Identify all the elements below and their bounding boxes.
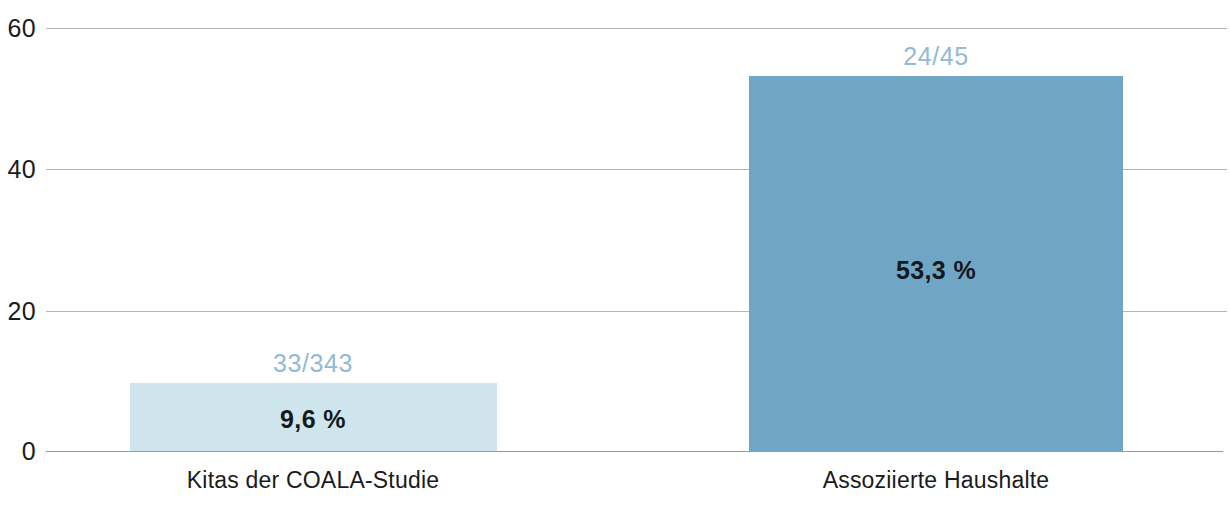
y-tick-label-60: 60	[0, 16, 36, 41]
bar-value-label-haushalte: 53,3 %	[816, 256, 1056, 285]
y-tick-label-40: 40	[0, 157, 36, 182]
y-tick-label-20: 20	[0, 299, 36, 324]
axis-baseline-0	[46, 451, 1223, 452]
gridline-60	[46, 28, 1227, 29]
x-category-label-kitas: Kitas der COALA-Studie	[133, 467, 493, 494]
bar-fraction-label-haushalte: 24/45	[816, 42, 1056, 71]
bar-fraction-label-kitas: 33/343	[193, 349, 433, 378]
y-tick-label-0: 0	[0, 439, 36, 464]
bar-chart: 60 40 20 0 33/343 9,6 % Kitas der COALA-…	[0, 0, 1230, 506]
x-category-label-haushalte: Assoziierte Haushalte	[756, 467, 1116, 494]
bar-value-label-kitas: 9,6 %	[193, 405, 433, 434]
